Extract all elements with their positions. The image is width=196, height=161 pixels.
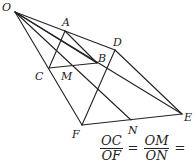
segment-CB xyxy=(49,63,97,68)
label-D: D xyxy=(112,36,122,49)
label-A: A xyxy=(61,16,70,29)
denominator: OF xyxy=(101,149,121,161)
fraction-oc-of: OC OF xyxy=(100,134,123,161)
label-M: M xyxy=(60,70,73,83)
ratio-formula: OC OF = OM ON = xyxy=(100,134,185,161)
segment-DE xyxy=(115,50,182,114)
segment-AC xyxy=(49,31,65,68)
line-segments xyxy=(15,12,182,125)
denominator: ON xyxy=(145,149,167,161)
label-F: F xyxy=(71,128,80,141)
equals-sign: = xyxy=(128,139,139,156)
equals-sign: = xyxy=(174,139,185,156)
label-C: C xyxy=(35,70,44,83)
numerator: OC xyxy=(100,134,123,149)
segment-OF xyxy=(15,12,82,125)
label-B: B xyxy=(97,52,106,65)
fraction-om-on: OM ON xyxy=(144,134,170,161)
label-O: O xyxy=(2,1,11,14)
numerator: OM xyxy=(144,134,170,149)
label-E: E xyxy=(183,111,192,124)
segment-AB xyxy=(65,31,97,63)
